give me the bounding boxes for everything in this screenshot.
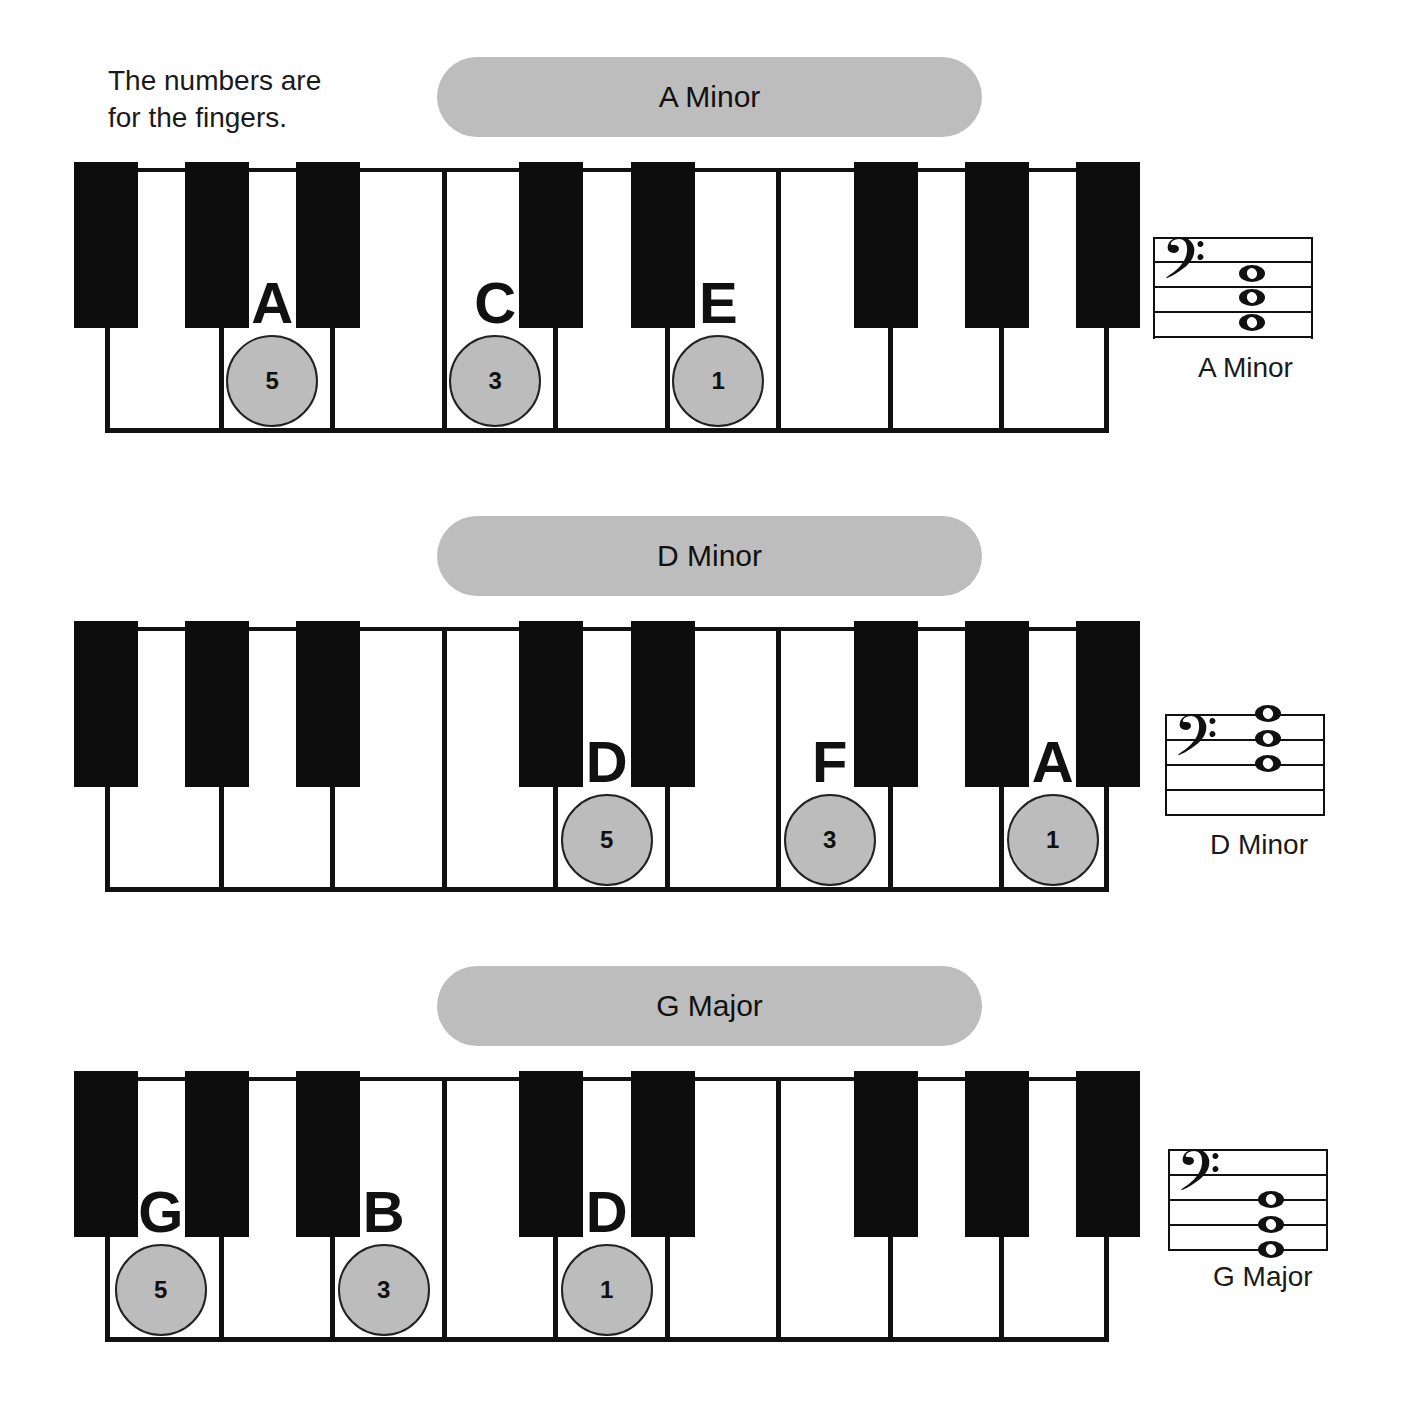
note-letter: D [567, 1183, 647, 1241]
finger-number-circle: 5 [226, 335, 318, 427]
chord-section-g-major: G Major G5B3D1 𝄢 G Major [0, 966, 1407, 1386]
note-letter: A [232, 274, 312, 332]
bass-staff: 𝄢 [1165, 714, 1325, 816]
whole-note-icon [1258, 1216, 1284, 1233]
finger-number-circle: 3 [784, 794, 876, 886]
finger-number-circle: 1 [1007, 794, 1099, 886]
black-key[interactable] [1076, 162, 1140, 328]
bass-clef-icon: 𝄢 [1161, 231, 1206, 301]
black-key[interactable] [296, 621, 360, 787]
bass-clef-icon: 𝄢 [1173, 708, 1218, 778]
black-key[interactable] [185, 621, 249, 787]
whole-note-icon [1258, 1241, 1284, 1258]
black-key[interactable] [965, 1071, 1029, 1237]
chord-section-a-minor: A Minor A5C3E1 𝄢 A Minor [0, 57, 1407, 477]
whole-note-icon [1239, 265, 1265, 282]
chord-title-pill: D Minor [437, 516, 982, 596]
whole-note-icon [1239, 314, 1265, 331]
chord-section-d-minor: D Minor D5F3A1 𝄢 D Minor [0, 516, 1407, 936]
whole-note-icon [1258, 1191, 1284, 1208]
black-key[interactable] [74, 621, 138, 787]
note-letter: B [344, 1183, 424, 1241]
finger-number-circle: 1 [561, 1244, 653, 1336]
black-key[interactable] [1076, 1071, 1140, 1237]
chord-title-pill: G Major [437, 966, 982, 1046]
black-key[interactable] [854, 1071, 918, 1237]
black-key[interactable] [965, 162, 1029, 328]
note-letter: C [455, 274, 535, 332]
bass-staff: 𝄢 [1168, 1149, 1328, 1251]
piano-keyboard: D5F3A1 [74, 621, 1144, 896]
finger-number-circle: 3 [338, 1244, 430, 1336]
finger-number-circle: 3 [449, 335, 541, 427]
finger-number-circle: 5 [561, 794, 653, 886]
piano-keyboard: G5B3D1 [74, 1071, 1144, 1346]
black-key[interactable] [854, 162, 918, 328]
whole-note-icon [1255, 705, 1281, 722]
staff-label: A Minor [1198, 352, 1293, 384]
piano-keyboard: A5C3E1 [74, 162, 1144, 437]
whole-note-icon [1255, 730, 1281, 747]
whole-note-icon [1239, 289, 1265, 306]
bass-staff: 𝄢 [1153, 237, 1313, 339]
black-key[interactable] [74, 162, 138, 328]
note-letter: D [567, 733, 647, 791]
note-letter: E [678, 274, 758, 332]
whole-note-icon [1255, 755, 1281, 772]
finger-number-circle: 1 [672, 335, 764, 427]
note-letter: G [121, 1183, 201, 1241]
note-letter: F [790, 733, 870, 791]
bass-clef-icon: 𝄢 [1176, 1143, 1221, 1213]
staff-label: G Major [1213, 1261, 1313, 1293]
finger-number-circle: 5 [115, 1244, 207, 1336]
note-letter: A [1013, 733, 1093, 791]
staff-label: D Minor [1210, 829, 1308, 861]
chord-title-pill: A Minor [437, 57, 982, 137]
